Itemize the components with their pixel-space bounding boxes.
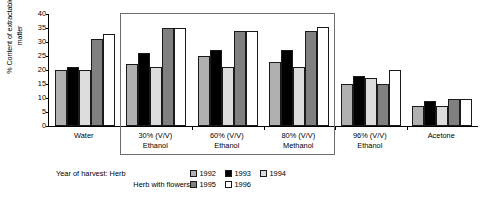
bar-group (264, 14, 336, 126)
bar-group (335, 14, 407, 126)
legend-swatch-icon (190, 181, 197, 188)
legend-label: 1995 (200, 179, 216, 190)
y-axis-tick-mark (46, 84, 49, 85)
x-axis-category-labels: Water30% (V/V) Ethanol60% (V/V) Ethanol8… (48, 129, 477, 155)
bar-set (126, 14, 186, 126)
legend-entry-1995[interactable]: 1995 (190, 179, 216, 190)
bar-group (407, 14, 479, 126)
y-axis-tick-label: 15 (30, 80, 46, 87)
x-axis-category-label: 60% (V/V) Ethanol (191, 129, 263, 155)
bar-groups (49, 14, 478, 126)
bar-1992[interactable] (198, 56, 210, 126)
legend-entry-1992[interactable]: 1992 (190, 168, 216, 179)
bar-1995[interactable] (305, 31, 317, 126)
y-axis-tick-mark (46, 42, 49, 43)
y-axis-tick-mark (46, 98, 49, 99)
y-axis-tick-labels: 0510152025303540 (30, 14, 46, 126)
bar-1992[interactable] (55, 70, 67, 126)
bar-1993[interactable] (281, 50, 293, 126)
y-axis-tick-label: 0 (30, 122, 46, 129)
y-axis-tick-label: 25 (30, 52, 46, 59)
bar-1996[interactable] (246, 31, 258, 126)
legend-row-title: Herb with flowers (56, 179, 190, 190)
legend-swatch-icon (225, 181, 232, 188)
x-axis-category-label: 96% (V/V) Ethanol (334, 129, 406, 155)
x-axis-category-label: Water (48, 129, 120, 155)
bar-1994[interactable] (293, 67, 305, 126)
bar-1996[interactable] (460, 99, 472, 126)
y-axis-tick-mark (46, 14, 49, 15)
y-axis-tick-mark (46, 126, 49, 127)
bar-1992[interactable] (412, 106, 424, 126)
bar-1995[interactable] (377, 84, 389, 126)
bar-1996[interactable] (174, 28, 186, 126)
y-axis-tick-mark (46, 112, 49, 113)
bar-1996[interactable] (317, 27, 329, 126)
y-axis-tick-label: 35 (30, 24, 46, 31)
bar-1996[interactable] (389, 70, 401, 126)
legend-entry-1993[interactable]: 1993 (225, 168, 251, 179)
legend-entries: 199219931994 (190, 168, 295, 179)
bar-1994[interactable] (222, 67, 234, 126)
legend-label: 1993 (234, 168, 250, 179)
y-axis-tick-label: 40 (30, 10, 46, 17)
y-axis-tick-label: 10 (30, 94, 46, 101)
bar-1992[interactable] (126, 64, 138, 126)
x-axis-category-label: 80% (V/V) Methanol (263, 129, 335, 155)
y-axis-title: % Content of extractable matter (5, 0, 24, 94)
bar-group (121, 14, 193, 126)
legend-entries: 19951996 (190, 179, 260, 190)
legend-label: 1996 (234, 179, 250, 190)
bar-set (55, 14, 115, 126)
legend-row: Herb with flowers19951996 (56, 179, 366, 190)
bar-1993[interactable] (67, 67, 79, 126)
bar-1994[interactable] (79, 70, 91, 126)
x-axis-category-label: 30% (V/V) Ethanol (120, 129, 192, 155)
legend-entry-1996[interactable]: 1996 (225, 179, 251, 190)
legend-row: Year of harvest: Herb199219931994 (56, 168, 366, 179)
bar-1994[interactable] (365, 78, 377, 126)
bar-1995[interactable] (448, 99, 460, 126)
bar-1992[interactable] (341, 84, 353, 126)
bar-set (198, 14, 258, 126)
y-axis-tick-mark (46, 28, 49, 29)
legend-label: 1994 (269, 168, 285, 179)
x-axis-category-label: Acetone (406, 129, 478, 155)
bar-1992[interactable] (269, 62, 281, 126)
bar-1993[interactable] (424, 101, 436, 126)
plot-area (48, 14, 478, 127)
bar-1993[interactable] (353, 76, 365, 126)
bar-chart-figure: % Content of extractable matter 05101520… (0, 0, 487, 204)
bar-1993[interactable] (210, 50, 222, 126)
legend-row-title: Year of harvest: Herb (56, 168, 190, 179)
bar-1995[interactable] (234, 31, 246, 126)
y-axis-tick-label: 20 (30, 66, 46, 73)
bar-1993[interactable] (138, 53, 150, 126)
legend-swatch-icon (260, 170, 267, 177)
bar-1994[interactable] (436, 106, 448, 126)
legend-label: 1992 (200, 168, 216, 179)
legend-entry-1994[interactable]: 1994 (260, 168, 286, 179)
legend-swatch-icon (190, 170, 197, 177)
bar-group (192, 14, 264, 126)
legend-swatch-icon (225, 170, 232, 177)
y-axis-tick-mark (46, 56, 49, 57)
bar-set (341, 14, 401, 126)
y-axis-tick-label: 5 (30, 108, 46, 115)
bar-1995[interactable] (91, 39, 103, 126)
bar-set (269, 14, 329, 126)
bar-group (49, 14, 121, 126)
bar-1994[interactable] (150, 67, 162, 126)
bar-set (412, 14, 472, 126)
y-axis-tick-label: 30 (30, 38, 46, 45)
y-axis-tick-mark (46, 70, 49, 71)
bar-1995[interactable] (162, 28, 174, 126)
chart-legend: Year of harvest: Herb199219931994Herb wi… (56, 168, 366, 190)
bar-1996[interactable] (103, 34, 115, 126)
